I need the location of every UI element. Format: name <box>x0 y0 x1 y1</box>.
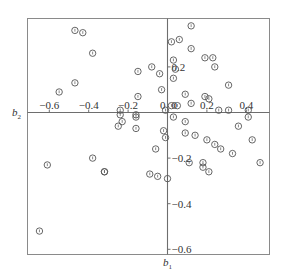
data-point <box>192 132 198 138</box>
data-point <box>200 164 206 170</box>
y-axis-label: b2 <box>12 106 22 121</box>
data-point <box>188 100 194 106</box>
data-point <box>170 114 176 120</box>
data-point <box>212 141 218 147</box>
data-points <box>36 23 263 235</box>
data-point <box>204 137 210 143</box>
data-point <box>101 169 107 175</box>
data-point <box>229 150 235 156</box>
data-point <box>235 123 241 129</box>
data-point <box>210 55 216 61</box>
data-point <box>202 55 208 61</box>
y-tick-label: −0.4 <box>172 198 192 210</box>
y-tick-label: −0.2 <box>172 152 192 164</box>
scatter-chart: −0.6−0.4−0.200.20.4 0.20−0.2−0.4−0.6 b2 … <box>0 0 283 277</box>
x-tick-label: −0.6 <box>39 99 59 111</box>
data-point <box>249 137 255 143</box>
data-point <box>56 89 62 95</box>
data-point <box>152 146 158 152</box>
data-point <box>182 118 188 124</box>
data-point <box>89 155 95 161</box>
data-point <box>176 36 182 42</box>
data-point <box>133 125 139 131</box>
data-point <box>168 39 174 45</box>
data-point <box>119 118 125 124</box>
y-axis-ticks: 0.20−0.2−0.4−0.6 <box>168 61 192 255</box>
data-point <box>182 91 188 97</box>
data-point <box>72 27 78 33</box>
y-tick-label: −0.6 <box>172 243 192 255</box>
data-point <box>72 80 78 86</box>
data-point <box>149 64 155 70</box>
data-point <box>188 23 194 29</box>
data-point <box>217 146 223 152</box>
plot-frame <box>28 19 270 255</box>
data-point <box>156 71 162 77</box>
data-point <box>80 30 86 36</box>
x-axis-label: b1 <box>163 256 173 271</box>
data-point <box>135 68 141 74</box>
data-point <box>170 75 176 81</box>
data-point <box>225 82 231 88</box>
data-point <box>206 169 212 175</box>
data-point <box>188 45 194 51</box>
data-point <box>44 162 50 168</box>
data-point <box>89 50 95 56</box>
data-point <box>154 173 160 179</box>
data-point <box>158 87 164 93</box>
data-point <box>182 130 188 136</box>
data-point <box>257 159 263 165</box>
x-tick-label: −0.2 <box>118 99 138 111</box>
data-point <box>212 64 218 70</box>
data-point <box>147 171 153 177</box>
data-point <box>245 114 251 120</box>
data-point <box>160 128 166 134</box>
x-tick-label: −0.4 <box>79 99 99 111</box>
data-point <box>36 228 42 234</box>
